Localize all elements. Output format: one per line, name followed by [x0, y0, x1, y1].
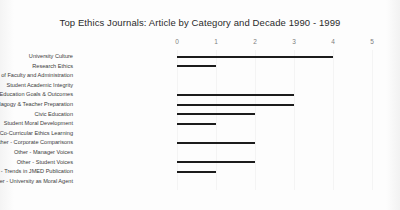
category-label: University Culture — [29, 52, 73, 62]
chart-row: University Culture — [0, 52, 400, 62]
chart-row: Ethics Pedagogy & Teacher Preparation — [0, 100, 400, 110]
chart-row: Other - Corporate Comparisons — [0, 138, 400, 148]
category-label: Student Moral Development — [4, 119, 73, 129]
category-label: Civic Education — [34, 110, 73, 120]
bar — [177, 171, 216, 173]
x-axis-tick-label: 5 — [370, 38, 374, 45]
x-axis-tick-label: 0 — [175, 38, 179, 45]
plot-area: 012345University CultureResearch EthicsE… — [0, 0, 400, 210]
x-axis-tick-label: 2 — [253, 38, 257, 45]
bar — [177, 113, 255, 115]
category-label: Ethics Pedagogy & Teacher Preparation — [0, 100, 73, 110]
bar — [177, 142, 255, 144]
category-label: Other - Student Voices — [17, 158, 73, 168]
category-label: Co-Curricular Ethics Learning — [0, 129, 73, 139]
bar — [177, 65, 216, 67]
chart-page: Top Ethics Journals: Article by Category… — [0, 0, 400, 210]
category-label: Other - Corporate Comparisons — [0, 138, 73, 148]
chart-row: Ethics Education Goals & Outcomes — [0, 90, 400, 100]
x-axis-tick-label: 3 — [292, 38, 296, 45]
chart-row: Other - University as Moral Agent — [0, 177, 400, 187]
category-label: Other - Manager Voices — [14, 148, 73, 158]
bar — [177, 94, 294, 96]
category-label: Other - University as Moral Agent — [0, 177, 73, 187]
x-axis-tick-label: 1 — [214, 38, 218, 45]
x-axis-tick-label: 4 — [331, 38, 335, 45]
bar — [177, 123, 216, 125]
category-label: Ethical Responsibility of Faculty and Ad… — [0, 71, 73, 81]
chart-row: Student Moral Development — [0, 119, 400, 129]
chart-row: Other - Trends in JMED Publication — [0, 167, 400, 177]
chart-row: Ethical Responsibility of Faculty and Ad… — [0, 71, 400, 81]
chart-row: Civic Education — [0, 110, 400, 120]
chart-row: Student Academic Integrity — [0, 81, 400, 91]
bar — [177, 56, 333, 58]
chart-row: Other - Manager Voices — [0, 148, 400, 158]
chart-row: Co-Curricular Ethics Learning — [0, 129, 400, 139]
category-label: Ethics Education Goals & Outcomes — [0, 90, 73, 100]
bar — [177, 104, 294, 106]
chart-row: Research Ethics — [0, 62, 400, 72]
category-label: Student Academic Integrity — [6, 81, 73, 91]
category-label: Research Ethics — [32, 62, 73, 72]
chart-row: Other - Student Voices — [0, 158, 400, 168]
bar — [177, 161, 255, 163]
category-label: Other - Trends in JMED Publication — [0, 167, 73, 177]
